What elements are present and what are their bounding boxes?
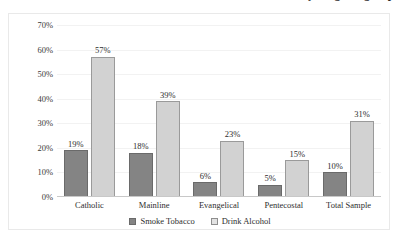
bar-column[interactable]: 18% (129, 25, 153, 197)
bar-value-label: 31% (354, 110, 370, 119)
bar-groups: 19%57%18%39%6%23%5%15%10%31% (57, 25, 381, 197)
bar[interactable] (91, 57, 115, 197)
x-axis-tick-label: Catholic (57, 200, 122, 210)
bar[interactable] (156, 101, 180, 197)
tobacco-swatch-icon (129, 218, 136, 225)
bar-value-label: 6% (200, 172, 211, 181)
bar-group: 10%31% (316, 25, 381, 197)
legend-item-label: Smoke Tobacco (140, 216, 194, 226)
legend-item-label: Drink Alcohol (222, 216, 271, 226)
y-axis-tick-label: 10% (13, 167, 53, 177)
bar-group: 18%39% (122, 25, 187, 197)
x-axis-tick-label: Evangelical (187, 200, 252, 210)
bar-column[interactable]: 19% (64, 25, 88, 197)
bar[interactable] (285, 160, 309, 197)
y-axis-tick-label: 0% (13, 192, 53, 202)
bar-column[interactable]: 39% (156, 25, 180, 197)
bar-value-label: 18% (133, 142, 149, 151)
bar-value-label: 23% (225, 130, 241, 139)
bar-value-label: 57% (95, 46, 111, 55)
bar-group: 6%23% (187, 25, 252, 197)
bar[interactable] (129, 153, 153, 197)
bar-value-label: 10% (327, 162, 343, 171)
legend-item[interactable]: Smoke Tobacco (129, 216, 194, 226)
y-axis-tick-label: 60% (13, 45, 53, 55)
y-axis: 0%10%20%30%40%50%60%70% (9, 25, 53, 197)
y-axis-tick-label: 40% (13, 94, 53, 104)
bar-column[interactable]: 23% (220, 25, 244, 197)
x-axis-tick-label: Mainline (122, 200, 187, 210)
legend-item[interactable]: Drink Alcohol (211, 216, 271, 226)
x-axis-tick-label: Pentecostal (251, 200, 316, 210)
x-axis: CatholicMainlineEvangelicalPentecostalTo… (57, 200, 381, 210)
bar-value-label: 39% (160, 91, 176, 100)
bar[interactable] (350, 121, 374, 197)
bar-value-label: 19% (68, 140, 84, 149)
bar-group: 19%57% (57, 25, 122, 197)
chart-frame: 0%10%20%30%40%50%60%70% 19%57%18%39%6%23… (8, 13, 390, 230)
y-axis-tick-label: 70% (13, 20, 53, 30)
bar-group: 5%15% (251, 25, 316, 197)
x-axis-tick-label: Total Sample (316, 200, 381, 210)
y-axis-tick-label: 50% (13, 69, 53, 79)
bar-value-label: 15% (289, 150, 305, 159)
x-axis-line (57, 196, 381, 197)
bar-column[interactable]: 5% (258, 25, 282, 197)
y-axis-tick-label: 20% (13, 143, 53, 153)
bar-column[interactable]: 15% (285, 25, 309, 197)
y-axis-tick-label: 30% (13, 118, 53, 128)
bar[interactable] (323, 172, 347, 197)
bar-column[interactable]: 6% (193, 25, 217, 197)
bar-column[interactable]: 57% (91, 25, 115, 197)
bar-column[interactable]: 31% (350, 25, 374, 197)
alcohol-swatch-icon (211, 218, 218, 225)
bar[interactable] (193, 182, 217, 197)
plot-area: 19%57%18%39%6%23%5%15%10%31% (57, 25, 381, 197)
bar-value-label: 5% (265, 174, 276, 183)
bar-column[interactable]: 10% (323, 25, 347, 197)
chart-legend: Smoke TobaccoDrink Alcohol (9, 216, 391, 226)
bar[interactable] (64, 150, 88, 197)
bar[interactable] (220, 141, 244, 198)
chart-title-strip: Use of tobacco and alcohol by religious … (0, 0, 398, 12)
